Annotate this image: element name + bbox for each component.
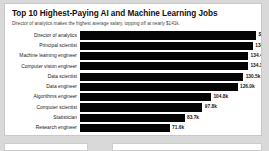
table-row: Machine learning engineer 134.4k xyxy=(12,52,256,61)
bar-category-label: Computer vision engineer xyxy=(12,64,80,70)
table-row: Algorithms engineer 104.8k xyxy=(12,93,256,102)
table-row: Research engineer 71.6k xyxy=(12,124,256,133)
bar xyxy=(80,103,202,111)
table-row: Computer scientist 97.8k xyxy=(12,103,256,112)
bar-value-label: 97.8k xyxy=(202,104,217,110)
bar-value-label: 83.7k xyxy=(185,115,200,121)
bar-value-label: 126.0k xyxy=(238,84,255,90)
bar xyxy=(80,114,185,122)
bar-chart-plot: Director of analytics $140.8k Principal … xyxy=(12,31,256,131)
bar-category-label: Statistician xyxy=(12,115,80,121)
table-row: Data engineer 126.0k xyxy=(12,82,256,91)
bar-category-label: Algorithms engineer xyxy=(12,94,80,100)
bar xyxy=(80,42,253,50)
bar xyxy=(80,52,248,60)
bar-category-label: Machine learning engineer xyxy=(12,53,80,59)
page-fragment-right xyxy=(112,143,262,151)
bar-track: $140.8k xyxy=(80,31,256,40)
bar-value-label: 104.8k xyxy=(211,94,228,100)
bar-category-label: Computer scientist xyxy=(12,105,80,111)
bar xyxy=(80,73,243,81)
bar-track: 134.4k xyxy=(80,52,256,61)
table-row: Principal scientist 138.3k xyxy=(12,41,256,50)
bar-value-label: $140.8k xyxy=(256,32,262,38)
bar-value-label: 71.6k xyxy=(170,125,185,131)
table-row: Computer vision engineer 134.3k xyxy=(12,62,256,71)
table-row: Data scientist 130.5k xyxy=(12,72,256,81)
bar-category-label: Director of analytics xyxy=(12,33,80,39)
bar-track: 83.7k xyxy=(80,113,256,122)
bar-category-label: Research engineer xyxy=(12,125,80,131)
page-fragment-left xyxy=(4,143,88,151)
bar-value-label: 134.3k xyxy=(248,63,262,69)
bar-value-label: 138.3k xyxy=(253,43,262,49)
table-row: Director of analytics $140.8k xyxy=(12,31,256,40)
bar-value-label: 134.4k xyxy=(248,53,262,59)
bar-track: 126.0k xyxy=(80,82,256,91)
bar-track: 71.6k xyxy=(80,124,256,133)
chart-card-inner: Top 10 Highest-Paying AI and Machine Lea… xyxy=(12,9,256,132)
page-title: Top 10 Highest-Paying AI and Machine Lea… xyxy=(12,9,256,19)
bar xyxy=(80,62,248,70)
bar xyxy=(80,124,170,132)
bar-track: 104.8k xyxy=(80,93,256,102)
bar-track: 130.5k xyxy=(80,72,256,81)
bar-track: 97.8k xyxy=(80,103,256,112)
bar xyxy=(80,31,256,39)
screenshot-root: Top 10 Highest-Paying AI and Machine Lea… xyxy=(0,0,269,151)
bar-track: 138.3k xyxy=(80,41,256,50)
bar xyxy=(80,83,238,91)
table-row: Statistician 83.7k xyxy=(12,113,256,122)
bar-category-label: Principal scientist xyxy=(12,43,80,49)
bar xyxy=(80,93,211,101)
bar-category-label: Data engineer xyxy=(12,84,80,90)
bar-value-label: 130.5k xyxy=(243,74,260,80)
chart-card: Top 10 Highest-Paying AI and Machine Lea… xyxy=(4,3,262,136)
bar-category-label: Data scientist xyxy=(12,74,80,80)
bar-track: 134.3k xyxy=(80,62,256,71)
chart-subtitle: Director of analytics makes the highest … xyxy=(12,20,256,27)
